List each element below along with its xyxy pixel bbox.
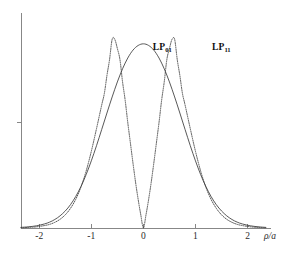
lp11-label: LP11 (212, 43, 231, 53)
lp11-label-subscript: 11 (224, 46, 230, 53)
curve-lp01 (21, 44, 266, 228)
figure-root: -2-1012 ρ/a LP01LP11 (0, 0, 290, 253)
curves-group (21, 37, 266, 228)
x-axis-tick-label: -2 (29, 232, 49, 242)
x-axis-tick-label: -1 (81, 232, 101, 242)
x-axis-title: ρ/a (264, 232, 276, 242)
lp01-label-subscript: 01 (165, 46, 172, 53)
lp11-label-text: LP (212, 42, 224, 52)
curve-lp11 (21, 37, 266, 228)
lp01-label-text: LP (153, 42, 165, 52)
lp01-label: LP01 (153, 43, 172, 53)
x-axis-tick-label: 0 (133, 232, 153, 242)
x-axis-tick-label: 1 (185, 232, 205, 242)
x-axis-tick-label: 2 (238, 232, 258, 242)
plot-canvas (0, 0, 290, 253)
axes-group (17, 13, 271, 228)
